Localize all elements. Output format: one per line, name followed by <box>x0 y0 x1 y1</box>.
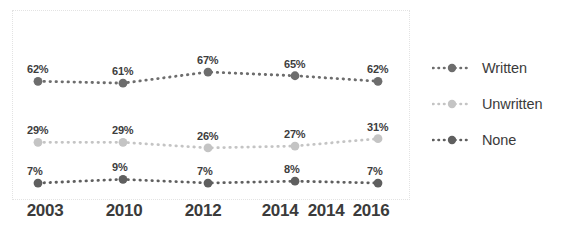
legend-item-written[interactable]: Written <box>432 52 558 84</box>
data-point-label: 9% <box>112 162 128 173</box>
legend-marker-unwritten <box>432 97 472 111</box>
x-tick-label: 2010 <box>106 201 143 221</box>
line-chart: 62%61%67%65%62%29%29%26%27%31%7%9%7%8%7%… <box>0 0 562 231</box>
data-point-label: 62% <box>27 64 48 75</box>
x-tick-label: 2016 <box>353 201 390 221</box>
legend-label-unwritten: Unwritten <box>472 96 542 112</box>
data-point-label: 8% <box>284 164 300 175</box>
x-tick-label: 2003 <box>27 201 64 221</box>
x-tick-label: 2012 <box>185 201 222 221</box>
legend-label-none: None <box>472 132 516 148</box>
legend-marker-written <box>432 61 472 75</box>
data-point-label: 29% <box>112 125 133 136</box>
data-point-label: 62% <box>367 64 388 75</box>
data-point-label: 7% <box>367 166 383 177</box>
data-point-label: 31% <box>367 122 388 133</box>
legend-marker-none <box>432 133 472 147</box>
data-point-label: 7% <box>197 166 213 177</box>
data-point-label: 61% <box>112 66 133 77</box>
chart-legend: Written Unwritten None <box>432 52 558 160</box>
data-point-label: 67% <box>197 55 218 66</box>
x-tick-label: 2014 <box>308 201 345 221</box>
data-point-label: 29% <box>27 125 48 136</box>
x-tick-label: 2014 <box>262 201 299 221</box>
x-axis: 200320102012201420142016 <box>12 201 410 227</box>
data-point-label: 7% <box>27 166 43 177</box>
data-point-label: 26% <box>197 131 218 142</box>
data-point-label: 27% <box>284 129 305 140</box>
legend-item-none[interactable]: None <box>432 124 558 156</box>
legend-item-unwritten[interactable]: Unwritten <box>432 88 558 120</box>
data-point-label: 65% <box>284 59 305 70</box>
legend-label-written: Written <box>472 60 527 76</box>
